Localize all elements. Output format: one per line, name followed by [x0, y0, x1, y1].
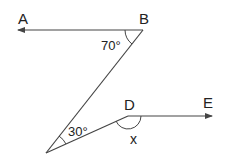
- point-label-a: A: [18, 10, 28, 27]
- geometry-diagram: A B D E 70° 30° x: [0, 0, 225, 163]
- point-label-d: D: [124, 96, 135, 113]
- angle-label-bottom: 30°: [68, 124, 88, 139]
- point-label-e: E: [203, 94, 213, 111]
- angle-arc-bottom: [59, 136, 66, 144]
- point-label-b: B: [139, 10, 149, 27]
- segment-b-bottom: [46, 30, 143, 153]
- angle-label-b: 70°: [101, 38, 121, 53]
- angle-arc-d: [116, 116, 141, 129]
- angle-arc-b: [125, 30, 132, 44]
- angle-label-x: x: [130, 131, 137, 147]
